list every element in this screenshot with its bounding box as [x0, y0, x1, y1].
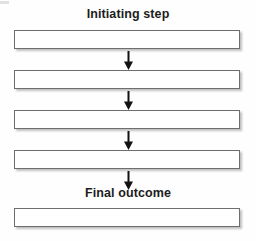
process-box-1[interactable] [14, 30, 240, 49]
arrow-down-icon [123, 51, 134, 70]
final-outcome-label: Final outcome [0, 186, 256, 200]
flowchart-canvas: Initiating step Final outcome [0, 0, 256, 241]
process-box-2[interactable] [14, 70, 240, 89]
process-box-4[interactable] [14, 150, 240, 169]
arrow-down-icon [123, 131, 134, 150]
arrow-down-icon [123, 91, 134, 110]
scan-artifact [0, 1, 9, 4]
process-box-3[interactable] [14, 110, 240, 129]
initiating-step-label: Initiating step [0, 7, 256, 21]
process-box-5[interactable] [14, 208, 240, 227]
